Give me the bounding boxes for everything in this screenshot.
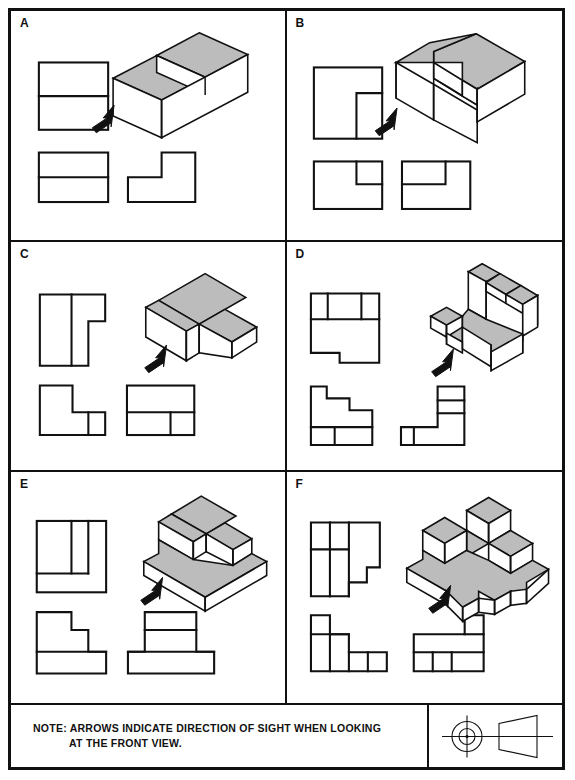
panel-d[interactable]: D bbox=[287, 242, 563, 473]
panel-a[interactable]: A bbox=[11, 11, 287, 242]
right-side-view-f bbox=[413, 616, 483, 672]
panel-a-drawing bbox=[11, 11, 285, 240]
panel-f[interactable]: F bbox=[287, 472, 563, 703]
isometric-view-b bbox=[396, 34, 525, 143]
top-view-a bbox=[39, 62, 108, 129]
panel-b-drawing bbox=[287, 11, 563, 240]
isometric-view-c bbox=[146, 273, 257, 360]
front-view-b bbox=[313, 161, 381, 209]
drawing-frame: A bbox=[8, 8, 565, 770]
panel-d-drawing bbox=[287, 242, 563, 471]
isometric-view-e bbox=[144, 496, 267, 611]
top-view-e bbox=[37, 521, 106, 592]
projection-symbol-box bbox=[429, 705, 562, 767]
front-view-c bbox=[40, 385, 105, 434]
panel-c[interactable]: C bbox=[11, 242, 287, 473]
isometric-view-d bbox=[430, 263, 537, 370]
front-view-a bbox=[39, 153, 108, 202]
front-view-e bbox=[37, 612, 106, 673]
right-side-view-a bbox=[128, 153, 195, 202]
isometric-view-f bbox=[406, 498, 548, 622]
worksheet-sheet: A bbox=[0, 0, 575, 780]
panel-c-drawing bbox=[11, 242, 285, 471]
right-side-view-e bbox=[128, 612, 214, 673]
note-line-2: AT THE FRONT VIEW. bbox=[33, 736, 427, 751]
note-band: NOTE: ARROWS INDICATE DIRECTION OF SIGHT… bbox=[11, 703, 562, 767]
right-side-view-b bbox=[401, 161, 469, 209]
note-text-box: NOTE: ARROWS INDICATE DIRECTION OF SIGHT… bbox=[11, 705, 429, 767]
panel-e-drawing bbox=[11, 472, 285, 703]
top-view-f bbox=[310, 523, 379, 597]
top-view-d bbox=[310, 293, 378, 362]
panel-b[interactable]: B bbox=[287, 11, 563, 242]
front-view-d bbox=[310, 386, 371, 444]
direction-arrow-d bbox=[431, 349, 453, 377]
panel-e[interactable]: E bbox=[11, 472, 287, 703]
right-side-view-c bbox=[127, 385, 194, 434]
top-view-c bbox=[40, 294, 105, 365]
top-view-b bbox=[313, 67, 381, 138]
direction-arrow-a bbox=[92, 105, 114, 133]
panel-f-drawing bbox=[287, 472, 563, 703]
isometric-view-a bbox=[113, 33, 248, 138]
right-side-view-d bbox=[400, 386, 463, 444]
direction-arrow-e bbox=[141, 578, 163, 606]
third-angle-projection-symbol bbox=[429, 705, 562, 767]
direction-arrow-b bbox=[375, 108, 397, 136]
note-line-1: NOTE: ARROWS INDICATE DIRECTION OF SIGHT… bbox=[33, 721, 427, 736]
direction-arrow-c bbox=[145, 345, 167, 373]
panel-grid: A bbox=[11, 11, 562, 703]
front-view-f bbox=[310, 616, 386, 672]
